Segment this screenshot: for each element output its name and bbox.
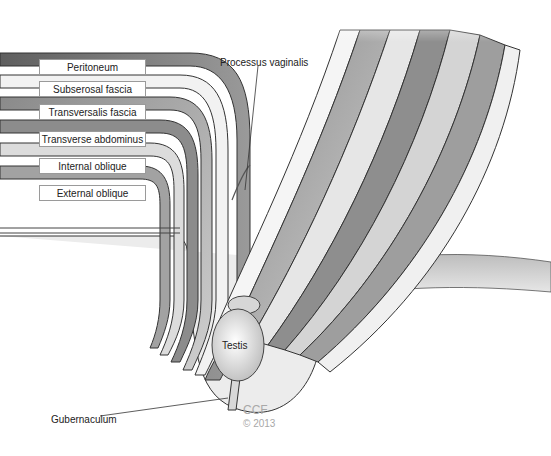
label-peritoneum: Peritoneum: [39, 59, 146, 75]
label-transverse-abdominus: Transverse abdominus: [39, 131, 146, 147]
leader-gubernaculum: [100, 398, 228, 416]
label-processus-vaginalis: Processus vaginalis: [220, 57, 308, 68]
label-internal-oblique: Internal oblique: [39, 158, 146, 174]
label-subserosal-fascia: Subserosal fascia: [39, 81, 146, 97]
label-gubernaculum: Gubernaculum: [51, 414, 117, 425]
watermark-copyright: © 2013: [243, 418, 275, 429]
label-testis: Testis: [222, 340, 248, 351]
anatomy-illustration: Peritoneum Subserosal fascia Transversal…: [0, 0, 551, 456]
watermark-org: CCF: [243, 405, 268, 416]
label-external-oblique: External oblique: [39, 185, 146, 201]
label-transversalis-fascia: Transversalis fascia: [39, 104, 146, 120]
